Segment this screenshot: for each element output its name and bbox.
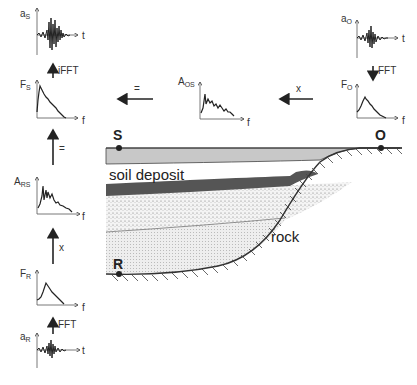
label-f-r-axis: f (82, 303, 85, 313)
label-ifft: iFFT (58, 66, 79, 76)
point-o-marker (378, 145, 384, 151)
label-fft-right: FFT (378, 66, 396, 76)
label-a-rs-axis: f (82, 212, 85, 222)
label-a-r-axis: t (82, 346, 85, 356)
plot-a-os (200, 82, 244, 119)
plot-a-s (37, 8, 78, 55)
plot-a-o (357, 20, 398, 58)
top-surface-layer (106, 148, 400, 164)
label-f-s: FS (20, 80, 31, 91)
label-a-r: aR (20, 332, 31, 343)
label-point-r: R (113, 257, 123, 271)
label-f-o-axis: f (402, 116, 405, 126)
label-a-rs: ARS (14, 177, 30, 188)
plot-f-s (37, 80, 78, 118)
point-s-marker (116, 145, 122, 151)
label-equals-left: = (59, 144, 65, 154)
plot-a-r (37, 333, 80, 368)
label-times-top: x (296, 84, 301, 94)
label-a-s: aS (20, 9, 30, 20)
plot-f-r (37, 270, 78, 305)
label-a-o: aO (341, 14, 352, 25)
label-fft-left: FFT (58, 320, 76, 330)
label-times-left: x (59, 243, 64, 253)
plot-a-rs (37, 177, 80, 214)
plot-f-o (357, 84, 398, 118)
label-point-o: O (375, 128, 386, 142)
label-soil-deposit: soil deposit (109, 167, 184, 182)
label-equals-top: = (134, 84, 140, 94)
label-a-os-axis: f (247, 118, 250, 128)
label-a-os: AOS (178, 77, 195, 88)
label-point-s: S (113, 128, 122, 142)
label-f-s-axis: f (82, 116, 85, 126)
label-f-o: FO (341, 80, 353, 91)
label-a-o-axis: t (402, 34, 405, 44)
label-rock: rock (271, 229, 299, 244)
label-f-r: FR (20, 269, 31, 280)
label-a-s-axis: t (82, 31, 85, 41)
